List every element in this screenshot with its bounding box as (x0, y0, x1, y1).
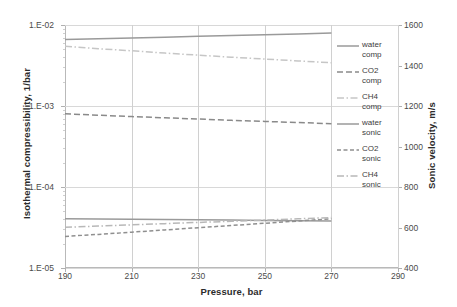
y2-axis-tick-label: 1000 (404, 142, 423, 152)
y-axis-tick-label: 1.E-05 (29, 263, 54, 273)
x-axis-tick-label: 290 (391, 271, 405, 281)
y2-axis-tick-label: 400 (404, 263, 418, 273)
y-axis-tick-label: 1.E-02 (29, 20, 54, 30)
x-axis-tick-label: 230 (191, 271, 205, 281)
legend-label: water comp (362, 40, 382, 59)
y2-axis-tick-label: 1600 (404, 20, 423, 30)
legend-label: CH4 comp (362, 92, 382, 111)
y2-axis-tick-label: 600 (404, 223, 418, 233)
x-axis-tick-label: 250 (258, 271, 272, 281)
legend-swatch-icon (337, 66, 359, 78)
y-axis-tick-label: 1.E-04 (29, 182, 54, 192)
legend-item-co2-sonic[interactable]: CO2 sonic (337, 144, 403, 163)
y-axis-left-title: Isothermal compressibility, 1/bar (21, 59, 32, 229)
y2-axis-tick-label: 1400 (404, 61, 423, 71)
legend-swatch-icon (337, 92, 359, 104)
x-axis-tick-label: 210 (125, 271, 139, 281)
legend-label: CO2 sonic (362, 144, 381, 163)
legend-swatch-icon (337, 40, 359, 52)
x-axis-title: Pressure, bar (65, 286, 398, 297)
x-axis-tick-label: 270 (324, 271, 338, 281)
y-axis-right-title: Sonic velocity, m/s (426, 86, 437, 206)
y-axis-tick-label: 1.E-03 (29, 101, 54, 111)
y2-axis-tick-label: 800 (404, 182, 418, 192)
legend-label: CO2 comp (362, 66, 382, 85)
gridline-horizontal (65, 268, 398, 269)
legend-label: CH4 sonic (362, 170, 381, 189)
legend-swatch-icon (337, 144, 359, 156)
chart-legend: water compCO2 compCH4 compwater sonicCO2… (337, 40, 403, 196)
legend-swatch-icon (337, 118, 359, 130)
x-axis-tick-label: 190 (58, 271, 72, 281)
y2-axis-tick-label: 1200 (404, 101, 423, 111)
legend-item-co2-comp[interactable]: CO2 comp (337, 66, 403, 85)
legend-label: water sonic (362, 118, 382, 137)
series-line-ch4-comp (65, 46, 331, 62)
legend-item-water-comp[interactable]: water comp (337, 40, 403, 59)
legend-item-ch4-sonic[interactable]: CH4 sonic (337, 170, 403, 189)
series-line-water-sonic (65, 33, 331, 39)
legend-item-ch4-comp[interactable]: CH4 comp (337, 92, 403, 111)
series-line-co2-comp (65, 114, 331, 124)
chart-container: Isothermal compressibility, 1/bar Sonic … (0, 0, 457, 307)
legend-swatch-icon (337, 170, 359, 182)
series-line-co2-sonic (65, 219, 331, 237)
legend-item-water-sonic[interactable]: water sonic (337, 118, 403, 137)
